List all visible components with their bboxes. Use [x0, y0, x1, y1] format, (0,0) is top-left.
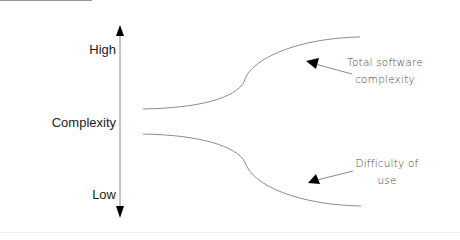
axis-title-label: Complexity	[40, 115, 116, 130]
annotation-total-software-complexity: Total software complexity	[340, 54, 430, 88]
annotation-upper-line2: complexity	[340, 71, 430, 88]
axis-low-label: Low	[80, 187, 116, 202]
pointer-arrowhead-upper-icon	[306, 58, 319, 69]
annotation-difficulty-of-use: Difficulty of use	[342, 155, 432, 189]
annotation-lower-line2: use	[342, 172, 432, 189]
axis-arrowhead-up-icon	[116, 25, 124, 36]
axis-high-label: High	[80, 42, 116, 57]
curve-total-software-complexity	[143, 37, 360, 109]
annotation-lower-line1: Difficulty of	[342, 155, 432, 172]
curve-difficulty-of-use	[143, 134, 361, 206]
axis-arrowhead-down-icon	[116, 206, 124, 218]
pointer-arrowhead-lower-icon	[308, 174, 320, 184]
annotation-upper-line1: Total software	[340, 54, 430, 71]
